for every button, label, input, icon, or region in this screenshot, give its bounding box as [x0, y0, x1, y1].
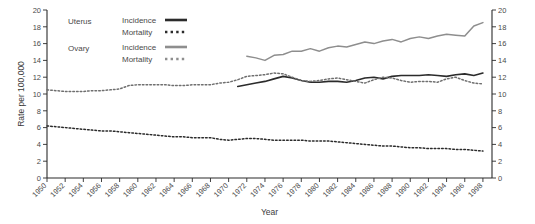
x-tick-label: 1970: [212, 181, 230, 199]
x-tick-label: 1984: [339, 181, 357, 199]
y-tick-label-left: 8: [37, 107, 41, 116]
legend-label-ovary-incidence: Incidence: [122, 43, 157, 52]
legend-label-ovary-mortality: Mortality: [122, 55, 152, 64]
y-tick-label-right: 4: [498, 140, 502, 149]
x-tick-label: 1976: [266, 181, 284, 199]
x-tick-label: 1988: [375, 181, 393, 199]
legend-group-uterus: Uterus: [68, 17, 92, 26]
series-uterus-mortality: [47, 126, 483, 151]
x-tick-label: 1986: [357, 181, 375, 199]
legend-label-uterus-mortality: Mortality: [122, 28, 152, 37]
chart-canvas: 0022446688101012121414161618182020195019…: [0, 0, 535, 224]
y-tick-label-right: 20: [498, 6, 506, 15]
series-ovary-incidence: [247, 23, 483, 61]
y-tick-label-right: 6: [498, 123, 502, 132]
x-tick-label: 1966: [176, 181, 194, 199]
y-tick-label-left: 20: [33, 6, 41, 15]
x-tick-label: 1968: [194, 181, 212, 199]
y-tick-label-right: 18: [498, 23, 506, 32]
x-tick-label: 1996: [448, 181, 466, 199]
y-tick-label-right: 12: [498, 73, 506, 82]
x-tick-label: 1982: [321, 181, 339, 199]
y-tick-label-right: 14: [498, 56, 506, 65]
y-tick-label-left: 16: [33, 39, 41, 48]
y-tick-label-left: 12: [33, 73, 41, 82]
y-tick-label-right: 10: [498, 90, 506, 99]
x-tick-label: 1950: [30, 181, 48, 199]
y-tick-label-right: 8: [498, 107, 502, 116]
x-tick-label: 1964: [157, 181, 175, 199]
cancer-rate-line-chart: 0022446688101012121414161618182020195019…: [0, 0, 535, 224]
legend-group-ovary: Ovary: [68, 44, 89, 53]
y-tick-label-right: 0: [498, 174, 502, 183]
y-tick-label-left: 4: [37, 140, 41, 149]
x-tick-label: 1954: [67, 181, 85, 199]
x-tick-label: 1958: [103, 181, 121, 199]
x-tick-label: 1994: [430, 181, 448, 199]
x-tick-label: 1992: [412, 181, 430, 199]
y-tick-label-left: 2: [37, 157, 41, 166]
x-tick-label: 1952: [48, 181, 66, 199]
y-tick-label-left: 6: [37, 123, 41, 132]
x-tick-label: 1960: [121, 181, 139, 199]
x-tick-label: 1978: [285, 181, 303, 199]
y-tick-label-left: 10: [33, 90, 41, 99]
x-tick-label: 1990: [394, 181, 412, 199]
x-tick-label: 1956: [85, 181, 103, 199]
y-tick-label-left: 18: [33, 23, 41, 32]
x-tick-label: 1974: [248, 181, 266, 199]
y-axis-title: Rate per 100,000: [16, 61, 26, 127]
y-tick-label-right: 16: [498, 39, 506, 48]
legend-label-uterus-incidence: Incidence: [122, 16, 157, 25]
x-tick-label: 1972: [230, 181, 248, 199]
y-tick-label-left: 14: [33, 56, 41, 65]
x-tick-label: 1980: [303, 181, 321, 199]
x-tick-label: 1962: [139, 181, 157, 199]
x-axis-title: Year: [261, 207, 278, 217]
y-tick-label-right: 2: [498, 157, 502, 166]
x-tick-label: 1998: [466, 181, 484, 199]
